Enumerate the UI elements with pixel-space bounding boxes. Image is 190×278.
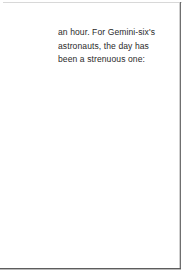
body-text-paragraph: an hour. For Gemini-six's astronauts, th… xyxy=(58,26,174,67)
body-text-line: astronauts, the day has xyxy=(58,40,166,54)
page-bottom-edge-shadow xyxy=(0,269,181,270)
page-top-edge-line xyxy=(3,2,182,3)
body-text-line: an hour. For Gemini-six's xyxy=(58,26,166,40)
page-right-edge-line xyxy=(180,2,181,269)
body-text-line: been a strenuous one: xyxy=(58,53,166,67)
scanned-page: an hour. For Gemini-six's astronauts, th… xyxy=(0,0,190,278)
